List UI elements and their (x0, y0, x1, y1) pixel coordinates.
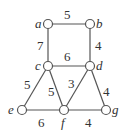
node-a (44, 20, 53, 29)
node-label-e: e (8, 102, 14, 117)
node-d (86, 62, 95, 71)
node-e (18, 106, 27, 115)
node-b (86, 20, 95, 29)
edge-weight-a-b: 5 (64, 7, 71, 22)
edge-weight-f-g: 4 (85, 115, 92, 130)
edge-weight-a-c: 7 (37, 38, 44, 53)
edge-weight-d-f: 3 (68, 76, 75, 91)
node-label-b: b (96, 16, 103, 31)
node-label-d: d (96, 58, 103, 73)
node-label-a: a (35, 16, 42, 31)
edge-weight-e-f: 6 (38, 115, 45, 130)
edge-weight-c-d: 6 (64, 49, 71, 64)
edge-weight-b-d: 4 (95, 38, 102, 53)
node-f (60, 106, 69, 115)
node-c (44, 62, 53, 71)
edge-weight-c-e: 5 (24, 77, 31, 92)
node-g (102, 106, 111, 115)
node-label-f: f (61, 115, 67, 130)
edge-weight-c-f: 5 (48, 84, 55, 99)
node-label-c: c (35, 58, 41, 73)
weighted-graph-diagram: 5746553464 abcdefg (0, 0, 126, 134)
edge-weight-d-g: 4 (103, 84, 110, 99)
node-label-g: g (112, 102, 119, 117)
